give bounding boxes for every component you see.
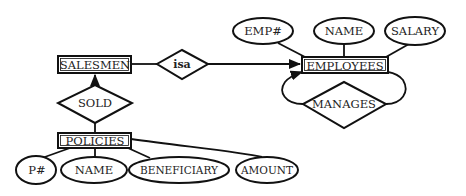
attribute-beneficiary-label: BENEFICIARY: [140, 164, 219, 176]
attribute-policy-name-label: NAME: [75, 163, 114, 177]
attribute-salary-label: SALARY: [391, 24, 439, 38]
entity-salesmen-label: SALESMEN: [60, 58, 130, 72]
attribute-amount-label: AMOUNT: [240, 164, 293, 176]
manages-right-arc: [386, 72, 406, 104]
entity-policies-label: POLICIES: [66, 134, 125, 148]
emp-no-line: [278, 43, 305, 57]
attribute-emp-name[interactable]: NAME: [314, 18, 374, 44]
er-diagram: SALESMEN isa EMPLOYEES EMP# NAME SALARY …: [0, 0, 466, 196]
attribute-p-no-label: P#: [28, 163, 45, 177]
relationship-isa[interactable]: isa: [157, 50, 208, 79]
p-no-line: [42, 148, 70, 158]
relationship-manages[interactable]: MANAGES: [303, 82, 386, 128]
entity-employees-label: EMPLOYEES: [306, 59, 383, 73]
relationship-isa-label: isa: [173, 58, 191, 71]
entity-employees[interactable]: EMPLOYEES: [302, 57, 388, 73]
entity-salesmen[interactable]: SALESMEN: [58, 56, 131, 73]
entity-policies[interactable]: POLICIES: [58, 133, 131, 148]
attribute-p-no[interactable]: P#: [16, 156, 56, 184]
attribute-emp-no[interactable]: EMP#: [233, 18, 293, 44]
beneficiary-line: [128, 148, 150, 158]
attribute-beneficiary[interactable]: BENEFICIARY: [129, 157, 229, 183]
attribute-policy-name[interactable]: NAME: [61, 157, 127, 183]
amount-line: [131, 139, 262, 157]
attribute-salary[interactable]: SALARY: [385, 17, 445, 45]
manages-left-arc: [282, 72, 303, 104]
relationship-manages-label: MANAGES: [312, 97, 376, 111]
attribute-amount[interactable]: AMOUNT: [236, 157, 298, 183]
relationship-sold[interactable]: SOLD: [58, 85, 132, 123]
relationship-sold-label: SOLD: [78, 96, 112, 110]
salary-line: [386, 44, 409, 57]
attribute-emp-name-label: NAME: [325, 24, 364, 38]
attribute-emp-no-label: EMP#: [244, 24, 282, 38]
